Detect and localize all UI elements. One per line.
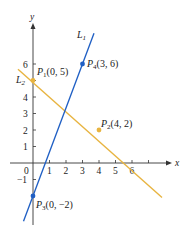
x-tick-label: 1	[47, 166, 52, 176]
x-axis-arrow-icon	[166, 161, 172, 166]
y-tick-label: 6	[23, 60, 28, 70]
point-p4-label: P4(3, 6)	[86, 58, 118, 71]
x-tick-label: 4	[97, 166, 102, 176]
x-axis-label: x	[174, 158, 180, 168]
x-tick-label: 2	[64, 166, 69, 176]
line-l1-label: L1	[76, 29, 86, 42]
y-tick-label: 2	[23, 126, 28, 136]
y-tick-label: 1	[23, 142, 28, 152]
point-p1-label: P1(0, 5)	[36, 66, 68, 79]
point-p3	[31, 194, 36, 199]
y-tick-label: 3	[23, 109, 28, 119]
point-p3-label: P3(0, −2)	[35, 199, 73, 212]
y-axis-arrow-icon	[31, 23, 36, 29]
y-tick-label: −1	[17, 175, 27, 185]
x-tick-label: 5	[113, 166, 118, 176]
coordinate-plane: x y 0 1 2 3 4 5 6 6 4 3 2 1 −1 L1 L2 P1(…	[0, 0, 187, 231]
x-tick-label: 3	[80, 166, 85, 176]
point-p2-label: P2(4, 2)	[100, 118, 132, 131]
axes: x y 0 1 2 3 4 5 6 6 4 3 2 1 −1	[10, 12, 180, 225]
point-p4	[80, 62, 85, 67]
y-tick-label: 4	[23, 93, 28, 103]
point-p1	[31, 78, 36, 83]
line-l2-label: L2	[15, 74, 26, 87]
y-axis-label: y	[29, 12, 35, 22]
